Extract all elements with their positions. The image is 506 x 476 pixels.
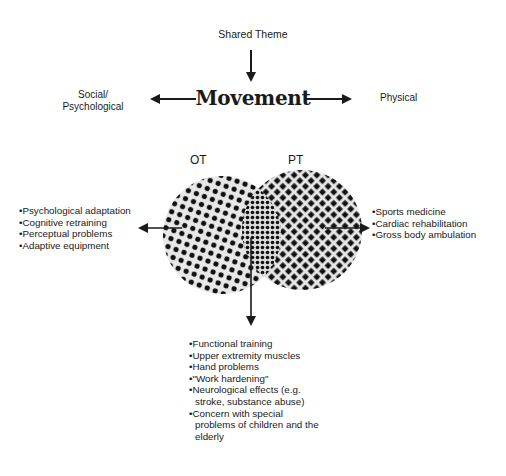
list-item: Functional training: [189, 338, 325, 350]
list-item: Adaptive equipment: [19, 240, 131, 252]
pt-label: PT: [288, 153, 303, 167]
list-item: Perceptual problems: [19, 228, 131, 240]
list-item: Upper extremity muscles: [189, 350, 325, 362]
list-item: Neurological effects (e.g. stroke, subst…: [189, 384, 325, 407]
list-item: Gross body ambulation: [372, 229, 476, 241]
list-item: Cardiac rehabilitation: [372, 218, 476, 230]
list-item: "Work hardening": [189, 373, 325, 385]
left-direction-line2: Psychological: [58, 101, 128, 113]
left-direction-label: Social/ Psychological: [58, 89, 128, 113]
ot-specific-list: Psychological adaptation Cognitive retra…: [19, 205, 131, 251]
ot-label: OT: [190, 153, 207, 167]
list-item: Hand problems: [189, 361, 325, 373]
list-item: Psychological adaptation: [19, 205, 131, 217]
right-direction-label: Physical: [380, 92, 417, 103]
list-item: Concern with special problems of childre…: [189, 408, 325, 443]
pt-specific-list: Sports medicine Cardiac rehabilitation G…: [372, 206, 476, 241]
left-direction-line1: Social/: [58, 89, 128, 101]
list-item: Cognitive retraining: [19, 217, 131, 229]
shared-theme-label: Shared Theme: [0, 28, 506, 40]
list-item: Sports medicine: [372, 206, 476, 218]
shared-overlap-list: Functional training Upper extremity musc…: [189, 338, 325, 442]
